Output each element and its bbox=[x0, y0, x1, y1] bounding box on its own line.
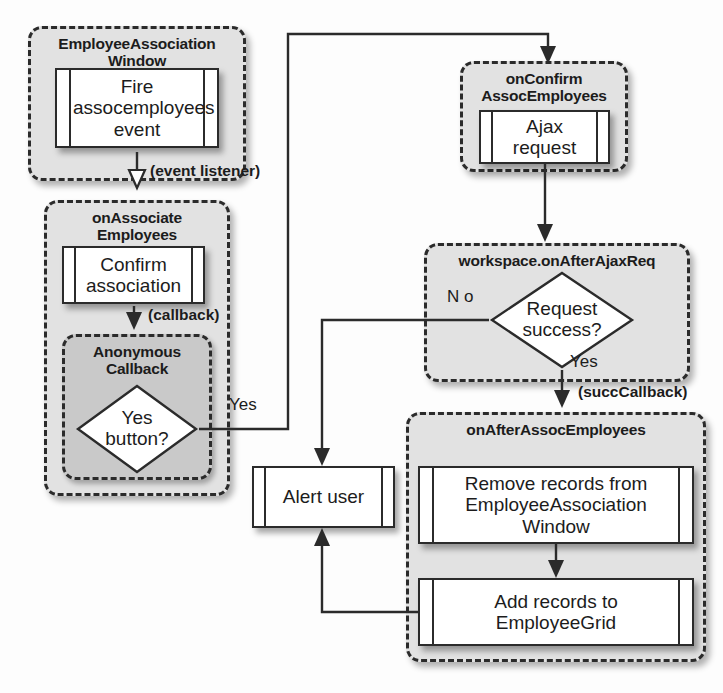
node-label-confirm-association: Confirm association bbox=[80, 254, 187, 297]
node-confirm-association: Confirm association bbox=[62, 246, 205, 304]
edge-ajax-to-onafterajax-arrowhead bbox=[537, 224, 553, 242]
edge-label-event-listener: (event listener) bbox=[150, 162, 260, 180]
subroutine-right-bar bbox=[191, 248, 193, 302]
node-add-records: Add records to EmployeeGrid bbox=[418, 578, 694, 646]
edge-no-to-alert-arrowhead bbox=[314, 448, 330, 466]
scope-title-on-associate-employees: onAssociate Employees bbox=[47, 209, 227, 244]
subroutine-left-bar bbox=[491, 112, 493, 162]
scope-title-on-after-assoc-employees: onAfterAssocEmployees bbox=[409, 421, 703, 438]
node-label-alert-user: Alert user bbox=[270, 486, 377, 507]
node-yes-button-decision: Yes button? bbox=[75, 383, 199, 475]
subroutine-right-bar bbox=[381, 468, 383, 526]
edge-succcallback-arrowhead bbox=[554, 390, 570, 408]
edge-label-no-from-success: N o bbox=[447, 287, 473, 307]
subroutine-left-bar bbox=[264, 468, 266, 526]
subroutine-right-bar bbox=[678, 580, 680, 644]
subroutine-left-bar bbox=[69, 70, 71, 146]
subroutine-left-bar bbox=[432, 468, 434, 542]
node-remove-records: Remove records from EmployeeAssociation … bbox=[418, 466, 694, 544]
scope-title-employee-association-window: EmployeeAssociation Window bbox=[31, 35, 243, 70]
subroutine-left-bar bbox=[432, 580, 434, 644]
node-label-ajax-request: Ajax request bbox=[497, 116, 592, 159]
subroutine-left-bar bbox=[74, 248, 76, 302]
edge-label-succ-callback: (succCallback) bbox=[578, 383, 687, 401]
scope-title-anonymous-callback: Anonymous Callback bbox=[65, 343, 209, 378]
flowchart-canvas: EmployeeAssociation Window Fire assocemp… bbox=[0, 0, 723, 693]
node-ajax-request: Ajax request bbox=[479, 110, 610, 164]
edge-label-yes-from-button: Yes bbox=[229, 395, 257, 415]
node-fire-assocemployees-event: Fire assocemployees event bbox=[55, 68, 219, 148]
scope-title-workspace-on-after-ajax-req: workspace.onAfterAjaxReq bbox=[427, 252, 687, 269]
node-label-remove-records: Remove records from EmployeeAssociation … bbox=[436, 473, 676, 537]
edge-label-yes-from-success: Yes bbox=[570, 352, 598, 372]
edge-add-to-alert-line bbox=[322, 546, 418, 612]
node-alert-user: Alert user bbox=[252, 466, 395, 528]
subroutine-right-bar bbox=[596, 112, 598, 162]
diamond-shape bbox=[489, 270, 635, 370]
node-label-add-records: Add records to EmployeeGrid bbox=[436, 591, 676, 634]
edge-add-to-alert-arrowhead bbox=[314, 528, 330, 546]
scope-title-on-confirm-assoc-employees: onConfirm AssocEmployees bbox=[463, 70, 625, 105]
node-label-fire-event: Fire assocemployees event bbox=[73, 76, 201, 140]
diamond-shape bbox=[75, 383, 199, 475]
edge-label-callback: (callback) bbox=[148, 306, 220, 324]
node-request-success-decision: Request success? bbox=[489, 270, 635, 370]
subroutine-right-bar bbox=[678, 468, 680, 542]
